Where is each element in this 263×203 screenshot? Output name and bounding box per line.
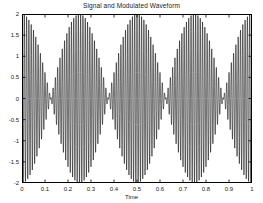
x-tick-label: 0.2 xyxy=(56,186,80,192)
x-tick-label: 1 xyxy=(240,186,263,192)
x-tick-label: 0.3 xyxy=(79,186,103,192)
x-tick-label: 0.5 xyxy=(125,186,149,192)
x-axis-label: Time xyxy=(0,194,263,201)
x-tick-label: 0.6 xyxy=(148,186,172,192)
x-tick-label: 0.8 xyxy=(194,186,218,192)
x-tick-label: 0.7 xyxy=(171,186,195,192)
x-tick-label: 0.1 xyxy=(33,186,57,192)
x-tick-label: 0 xyxy=(10,186,34,192)
x-tick-label: 0.9 xyxy=(217,186,241,192)
x-axis-tick-labels: 00.10.20.30.40.50.60.70.80.91 xyxy=(0,0,263,203)
figure-canvas: Signal and Modulated Waveform -2-1.5-1-0… xyxy=(0,0,263,203)
x-tick-label: 0.4 xyxy=(102,186,126,192)
